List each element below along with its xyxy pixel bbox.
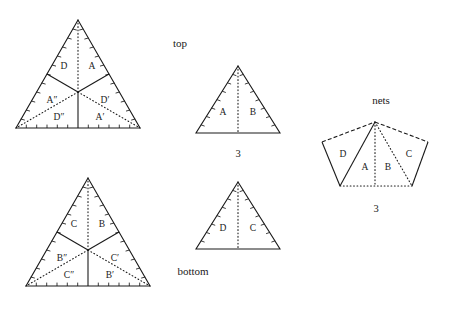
net-label-A: A bbox=[362, 162, 369, 172]
top-face-subdivided-triangle: D A A″ D′ D″ A′ bbox=[16, 20, 140, 128]
top-triangle-label-D-prime: D′ bbox=[101, 95, 110, 105]
caption-top: top bbox=[173, 37, 188, 49]
bottom-triangle-label-B-prime: B′ bbox=[106, 270, 114, 280]
geometry-figure: D A A″ D′ D″ A′ top A B bbox=[0, 0, 451, 313]
bottom-triangle-spoke-upper-right bbox=[88, 232, 119, 250]
net-right-dashed-edge bbox=[375, 122, 428, 142]
middle-top-left-edge-ticks bbox=[201, 74, 237, 126]
middle-top-label-B: B bbox=[250, 107, 256, 117]
bottom-triangle-spoke-upper-left bbox=[57, 232, 88, 250]
top-triangle-spoke-upper-right bbox=[78, 74, 109, 92]
middle-bottom-right-edge-ticks bbox=[240, 190, 276, 242]
top-triangle-label-A-dprime: A″ bbox=[47, 95, 58, 105]
net-label-D: D bbox=[340, 149, 347, 159]
middle-bottom-left-edge-ticks bbox=[201, 190, 237, 242]
net-fan-diagram: D A B C 3 bbox=[322, 122, 428, 214]
top-triangle-label-D-dprime: D″ bbox=[54, 112, 65, 122]
net-label-C: C bbox=[406, 149, 412, 159]
bottom-triangle-label-C-prime: C′ bbox=[111, 253, 119, 263]
bottom-triangle-label-B-dprime: B″ bbox=[57, 253, 67, 263]
caption-bottom: bottom bbox=[177, 265, 209, 277]
net-left-dashed-edge bbox=[322, 122, 375, 142]
middle-bottom-label-C: C bbox=[250, 223, 256, 233]
middle-top-right-edge-ticks bbox=[240, 74, 276, 126]
bottom-face-subdivided-triangle: C B B″ C′ C″ B′ bbox=[26, 178, 150, 286]
caption-nets: nets bbox=[372, 94, 390, 106]
bottom-triangle-label-B: B bbox=[99, 219, 105, 229]
bottom-triangle-label-C: C bbox=[71, 219, 77, 229]
middle-bottom-label-D: D bbox=[220, 223, 227, 233]
side-face-triangle-dc: D C bbox=[196, 182, 280, 249]
top-triangle-label-A-prime: A′ bbox=[96, 112, 105, 122]
middle-top-number: 3 bbox=[235, 148, 240, 159]
top-triangle-spoke-upper-left bbox=[47, 74, 78, 92]
side-face-triangle-ab: A B 3 bbox=[196, 66, 280, 159]
bottom-triangle-label-C-dprime: C″ bbox=[64, 270, 74, 280]
net-number: 3 bbox=[373, 203, 378, 214]
net-label-B: B bbox=[385, 162, 391, 172]
figure-canvas: D A A″ D′ D″ A′ top A B bbox=[0, 0, 451, 313]
top-triangle-label-A: A bbox=[89, 61, 96, 71]
net-right-outer-edge bbox=[412, 142, 428, 186]
top-triangle-label-D: D bbox=[61, 61, 68, 71]
middle-top-label-A: A bbox=[220, 107, 227, 117]
net-left-outer-edge bbox=[322, 142, 340, 186]
